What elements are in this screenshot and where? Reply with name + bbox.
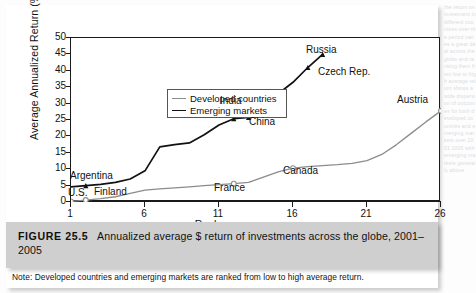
annotation-france: France [214, 183, 245, 193]
y-tick-label-20: 20 [24, 130, 66, 140]
annotation-us: U.S. [68, 188, 87, 198]
figure-note: Note: Developed countries and emerging m… [12, 272, 452, 282]
y-tick-label-35: 35 [24, 81, 66, 91]
marker-austria [439, 108, 441, 113]
y-tick-5 [66, 185, 71, 186]
legend-label-emerging: Emerging markets [190, 105, 267, 116]
marker-u-s [71, 199, 73, 202]
figure-number: FIGURE 25.5 [18, 230, 88, 242]
annotation-russia: Russia [306, 45, 337, 55]
y-tick-40 [66, 70, 71, 71]
annotation-austria: Austria [397, 95, 428, 105]
annotation-canada: Canada [283, 166, 318, 176]
y-tick-label-25: 25 [24, 114, 66, 124]
x-tick-1 [70, 202, 71, 207]
y-tick-10 [66, 168, 71, 169]
annotation-czech: Czech Rep. [318, 67, 370, 77]
y-tick-label-45: 45 [24, 48, 66, 58]
y-tick-label-50: 50 [24, 32, 66, 42]
annotation-argentina: Argentina [70, 171, 113, 181]
x-tick-6 [144, 202, 145, 207]
legend-swatch-developed-icon [172, 98, 186, 99]
page-background: the return on investment in different co… [0, 0, 476, 293]
y-tick-25 [66, 119, 71, 120]
figure-caption: FIGURE 25.5 Annualized average $ return … [18, 230, 424, 257]
y-tick-15 [66, 152, 71, 153]
y-tick-20 [66, 135, 71, 136]
marker-finland [83, 198, 88, 202]
figure-caption-bar: FIGURE 25.5 Annualized average $ return … [6, 222, 438, 268]
x-tick-26 [440, 202, 441, 207]
legend-swatch-emerging-icon [172, 110, 186, 111]
y-tick-30 [66, 103, 71, 104]
y-tick-label-10: 10 [24, 163, 66, 173]
y-tick-label-30: 30 [24, 98, 66, 108]
y-tick-label-5: 5 [24, 180, 66, 190]
ghost-body-text: the return on investment in different co… [444, 4, 476, 289]
y-tick-label-0: 0 [24, 196, 66, 206]
x-tick-11 [218, 202, 219, 207]
y-tick-35 [66, 86, 71, 87]
x-tick-16 [292, 202, 293, 207]
annotation-china: China [249, 117, 275, 127]
annotation-india: India [220, 96, 242, 106]
y-tick-45 [66, 53, 71, 54]
annotation-finland: Finland [94, 187, 127, 197]
x-tick-21 [366, 202, 367, 207]
y-tick-label-40: 40 [24, 65, 66, 75]
y-tick-label-15: 15 [24, 147, 66, 157]
y-tick-50 [66, 37, 71, 38]
